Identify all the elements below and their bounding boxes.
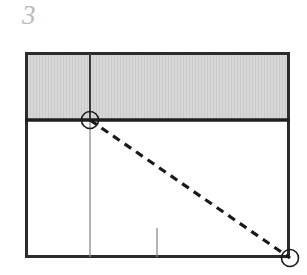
- diagram-canvas: [0, 0, 307, 275]
- shaded-region: [25, 52, 290, 120]
- figure-container: 3: [0, 0, 307, 275]
